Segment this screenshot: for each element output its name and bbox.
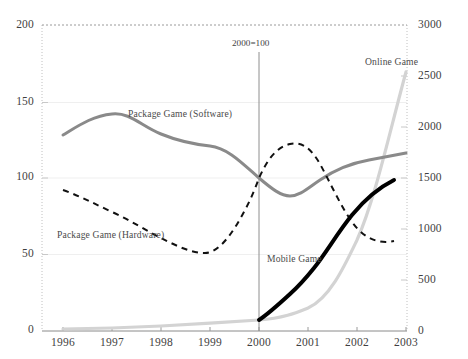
y-axis-left-tick-150: 150	[0, 95, 34, 107]
series-label-package-hardware: Package Game (Hardware)	[57, 229, 164, 240]
y-axis-right-tick-3000: 3000	[418, 18, 442, 30]
x-axis-tick-1999: 1999	[190, 336, 230, 348]
x-axis-tick-2001: 2001	[288, 336, 328, 348]
x-axis-tick-1998: 1998	[141, 336, 181, 348]
y-axis-right-tick-1000: 1000	[418, 222, 442, 234]
y-axis-right-tick-0: 0	[418, 324, 424, 336]
series-line-package-software	[63, 114, 406, 196]
x-axis-tick-1997: 1997	[92, 336, 132, 348]
chart-container: 200 150 100 50 0 3000 2500 2000 1500 100…	[0, 0, 468, 359]
y-axis-right-tick-2000: 2000	[418, 120, 442, 132]
y-axis-left-tick-200: 200	[0, 18, 34, 30]
x-axis-tick-2003: 2003	[386, 336, 426, 348]
y-axis-right-tick-2500: 2500	[418, 69, 442, 81]
series-line-mobile-game	[259, 180, 394, 320]
annotation-base-index: 2000=100	[232, 38, 269, 48]
series-label-mobile-game: Mobile Game	[267, 253, 322, 264]
series-label-package-software: Package Game (Software)	[128, 108, 232, 119]
x-axis-tick-2000: 2000	[239, 336, 279, 348]
axis-right-ticks	[401, 76, 407, 280]
y-axis-right-tick-500: 500	[418, 273, 436, 285]
series-label-online-game: Online Game	[365, 56, 418, 67]
series-line-online-game	[63, 72, 406, 329]
axis-left-ticks	[42, 103, 48, 255]
y-axis-left-tick-0: 0	[0, 323, 34, 335]
x-axis-tick-2002: 2002	[337, 336, 377, 348]
y-axis-right-tick-1500: 1500	[418, 171, 442, 183]
y-axis-left-tick-100: 100	[0, 170, 34, 182]
y-axis-left-tick-50: 50	[0, 247, 34, 259]
chart-canvas	[0, 0, 468, 359]
x-axis-tick-1996: 1996	[43, 336, 83, 348]
